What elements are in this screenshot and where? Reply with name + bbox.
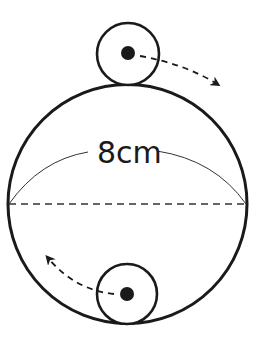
label-arc-right: [157, 151, 246, 204]
rolling-circles-diagram: 8cm: [0, 0, 274, 354]
top-center-dot: [121, 46, 135, 60]
diameter-label: 8cm: [97, 135, 162, 170]
bottom-center-dot: [120, 287, 134, 301]
label-arc-left: [9, 152, 88, 204]
